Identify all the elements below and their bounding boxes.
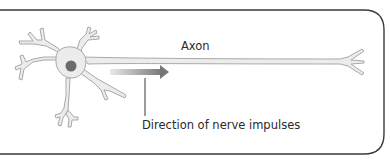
axon-label: Axon <box>181 39 210 53</box>
dendrite <box>19 28 62 54</box>
direction-arrow <box>110 65 169 79</box>
neuron-diagram: Axon Direction of nerve impulses <box>0 0 390 163</box>
dendrite <box>15 55 58 80</box>
nucleus <box>66 61 77 72</box>
direction-label: Direction of nerve impulses <box>142 118 300 132</box>
dendrite <box>55 78 78 127</box>
frame-border <box>0 10 384 154</box>
